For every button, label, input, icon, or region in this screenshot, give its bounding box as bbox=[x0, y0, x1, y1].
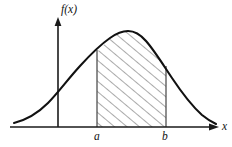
figure-container: f(x) x a b bbox=[0, 0, 232, 147]
y-axis-label: f(x) bbox=[61, 3, 77, 16]
x-axis-label: x bbox=[221, 120, 228, 132]
y-axis-arrow-icon bbox=[55, 17, 62, 26]
shaded-region bbox=[90, 20, 176, 132]
x-axis-arrow-icon bbox=[209, 123, 219, 130]
bell-curve-integral-diagram: f(x) x a b bbox=[0, 0, 232, 147]
upper-bound-label-b: b bbox=[162, 130, 168, 142]
lower-bound-label-a: a bbox=[94, 130, 100, 142]
